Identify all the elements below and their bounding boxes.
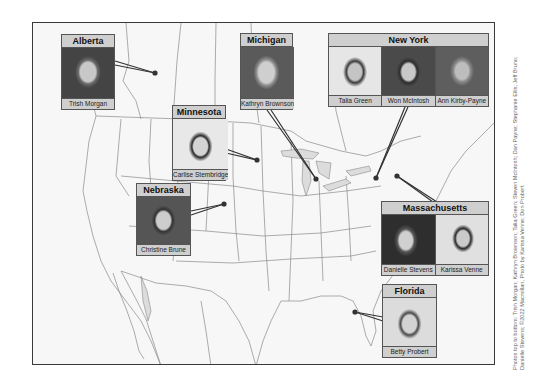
callout-title: Minnesota: [173, 106, 225, 119]
person-name: Karissa Venne: [436, 264, 489, 275]
nebraska-callout: Nebraska Christine Brune: [136, 183, 191, 256]
photo-credit-line-1: Photos top to bottom: Trish Morgan; Kath…: [512, 20, 519, 370]
callout-title: Nebraska: [137, 184, 190, 197]
person-name: Kathryn Brownson: [241, 98, 294, 109]
massachusetts-location-dot: [394, 173, 399, 178]
portrait-photo: [62, 48, 114, 98]
callout-title: New York: [329, 34, 488, 47]
person-name: Christine Brune: [137, 244, 190, 255]
photo-credit: Photos top to bottom: Trish Morgan; Kath…: [512, 20, 526, 370]
portrait-photo: [436, 47, 488, 95]
minnesota-location-dot: [254, 157, 259, 162]
portrait-photo: [383, 298, 436, 346]
portrait-photo: [382, 47, 434, 95]
portrait-photo: [173, 119, 228, 169]
florida-location-dot: [352, 309, 357, 314]
portrait-photo: [329, 47, 381, 95]
person-name: Trish Morgan: [62, 98, 114, 109]
new-york-callout: New York Talia Green Won McIntosh Ann Ki…: [328, 33, 489, 107]
person-name: Danielle Stevens: [382, 264, 435, 275]
florida-callout: Florida Betty Probert: [382, 284, 437, 358]
person-name: Talia Green: [329, 95, 381, 106]
alberta-location-dot: [152, 70, 157, 75]
michigan-callout: Michigan Kathryn Brownson: [240, 33, 293, 110]
person-name: Ann Kirby-Payne: [436, 95, 488, 106]
callout-title: Massachusetts: [382, 202, 488, 215]
new-york-location-dot: [373, 175, 378, 180]
callout-title: Michigan: [241, 34, 292, 47]
alberta-callout: Alberta Trish Morgan: [61, 34, 115, 110]
callout-title: Florida: [383, 285, 436, 298]
nebraska-location-dot: [221, 201, 226, 206]
portrait-photo: [382, 215, 435, 264]
minnesota-callout: Minnesota Carlise Stembridge: [172, 105, 226, 181]
portrait-photo: [137, 197, 190, 244]
portrait-photo: [436, 215, 489, 264]
portrait-photo: [241, 47, 294, 98]
person-name: Betty Probert: [383, 346, 436, 357]
michigan-location-dot: [313, 176, 318, 181]
massachusetts-callout: Massachusetts Danielle Stevens Karissa V…: [381, 201, 489, 276]
photo-credit-line-2: Danielle Stevens; ©2022 Macmillan, Photo…: [519, 20, 526, 370]
callout-title: Alberta: [62, 35, 114, 48]
person-name: Carlise Stembridge: [173, 169, 228, 180]
person-name: Won McIntosh: [382, 95, 434, 106]
